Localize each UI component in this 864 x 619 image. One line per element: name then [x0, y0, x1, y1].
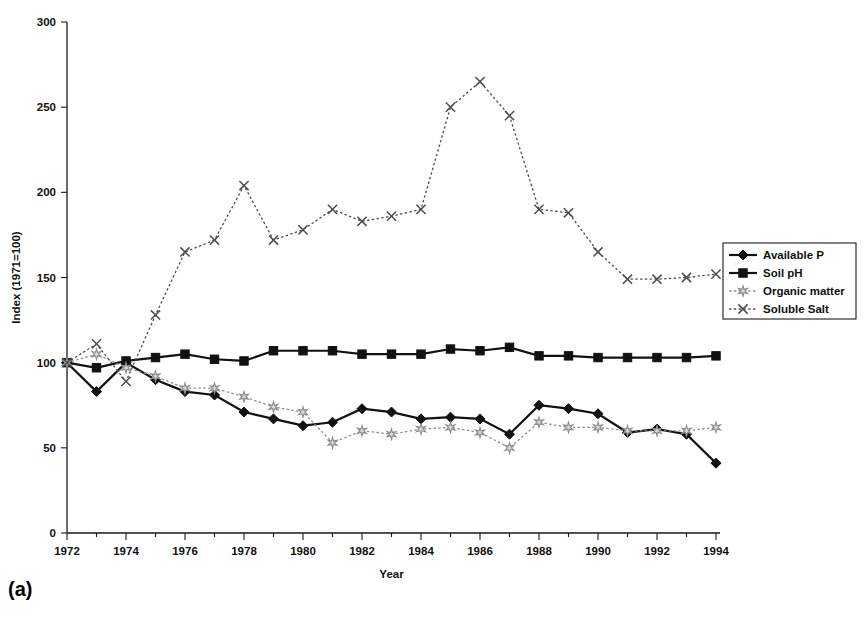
data-point: [387, 407, 397, 417]
data-point: [476, 347, 484, 355]
y-tick-label: 150: [37, 272, 56, 284]
legend-label: Soluble Salt: [763, 303, 829, 315]
series-layer: [62, 77, 721, 468]
data-point: [387, 429, 396, 439]
data-point: [151, 310, 160, 319]
x-tick-label: 1976: [172, 545, 198, 557]
data-point: [92, 364, 100, 372]
data-point: [387, 350, 395, 358]
data-point: [505, 111, 514, 120]
figure-caption: (a): [8, 578, 32, 601]
data-point: [535, 352, 543, 360]
data-point: [623, 353, 631, 361]
data-point: [298, 225, 307, 234]
data-point: [505, 343, 513, 351]
figure-root: 050100150200250300 197219741976197819801…: [0, 0, 864, 619]
data-point: [682, 353, 690, 361]
data-point: [357, 217, 366, 226]
data-point: [358, 426, 367, 436]
y-tick-label: 300: [37, 16, 56, 28]
legend-label: Soil pH: [763, 267, 803, 279]
data-point: [121, 377, 130, 386]
data-point: [210, 355, 218, 363]
data-point: [564, 404, 574, 414]
data-point: [593, 247, 602, 256]
data-point: [594, 422, 603, 432]
x-tick-label: 1988: [526, 545, 552, 557]
y-tick-label: 200: [37, 186, 56, 198]
data-point: [239, 181, 248, 190]
data-point: [328, 417, 338, 427]
y-tick-label: 250: [37, 101, 56, 113]
data-point: [298, 421, 308, 431]
x-tick-label: 1990: [585, 545, 611, 557]
data-point: [357, 404, 367, 414]
data-point: [475, 414, 485, 424]
data-point: [269, 402, 278, 412]
x-tick-label: 1992: [644, 545, 670, 557]
line-chart: 050100150200250300 197219741976197819801…: [0, 0, 864, 619]
y-axis-title: Index (1971=100): [10, 231, 22, 324]
data-point: [269, 347, 277, 355]
data-point: [239, 407, 249, 417]
data-point: [358, 350, 366, 358]
x-tick-label: 1974: [113, 545, 139, 557]
data-point: [505, 443, 514, 453]
y-tick-label: 50: [43, 442, 56, 454]
data-point: [269, 414, 279, 424]
data-point: [712, 352, 720, 360]
data-point: [328, 347, 336, 355]
legend-label: Organic matter: [763, 285, 845, 297]
data-point: [299, 347, 307, 355]
y-tick-label: 0: [50, 527, 56, 539]
x-axis-tick-labels: 1972197419761978198019821984198619881990…: [54, 545, 729, 557]
series-available-p: [62, 358, 721, 468]
y-axis-ticks: [61, 22, 67, 533]
x-tick-label: 1982: [349, 545, 375, 557]
data-point: [564, 352, 572, 360]
data-point: [446, 345, 454, 353]
x-axis-title: Year: [379, 568, 404, 580]
x-tick-label: 1994: [703, 545, 729, 557]
data-point: [210, 235, 219, 244]
data-point: [328, 205, 337, 214]
data-point: [417, 350, 425, 358]
series-soluble-salt: [62, 77, 720, 386]
x-tick-label: 1978: [231, 545, 257, 557]
x-tick-label: 1972: [54, 545, 80, 557]
data-point: [446, 103, 455, 112]
data-point: [240, 357, 248, 365]
data-point: [151, 353, 159, 361]
x-axis-ticks: [67, 533, 716, 540]
data-point: [92, 349, 101, 359]
data-point: [240, 392, 249, 402]
data-point: [210, 383, 219, 393]
series-line: [67, 82, 716, 382]
y-axis-tick-labels: 050100150200250300: [37, 16, 56, 539]
data-point: [594, 353, 602, 361]
data-point: [475, 77, 484, 86]
series-soil-ph: [63, 343, 720, 372]
y-tick-label: 100: [37, 357, 56, 369]
x-tick-label: 1984: [408, 545, 434, 557]
data-point: [269, 235, 278, 244]
legend-label: Available P: [763, 249, 824, 261]
data-point: [181, 350, 189, 358]
x-tick-label: 1980: [290, 545, 316, 557]
data-point: [180, 247, 189, 256]
data-point: [653, 353, 661, 361]
legend-item-soil-ph[interactable]: Soil pH: [729, 267, 803, 279]
series-organic-matter: [63, 349, 721, 453]
legend-marker: [739, 269, 747, 277]
data-point: [416, 205, 425, 214]
chart-legend: Available PSoil pHOrganic matterSoluble …: [723, 243, 856, 319]
x-tick-label: 1986: [467, 545, 493, 557]
legend-item-available-p[interactable]: Available P: [729, 249, 824, 261]
